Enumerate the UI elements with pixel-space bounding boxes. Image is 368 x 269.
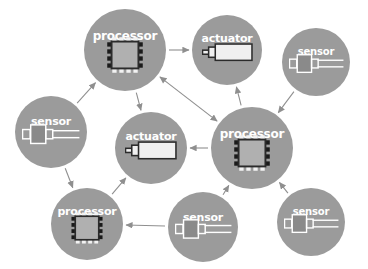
node-icon-wrap	[192, 42, 262, 66]
node-actuator-top[interactable]: actuator	[192, 15, 262, 85]
node-icon-wrap	[277, 212, 345, 239]
diagram-canvas: processoractuatorsensorsensoractuatorpro…	[0, 0, 368, 269]
node-sensor-left[interactable]: sensor	[15, 96, 87, 168]
sensor-icon	[284, 212, 339, 235]
node-icon-wrap	[84, 31, 166, 83]
node-processor-center[interactable]: processor	[211, 107, 293, 189]
node-actuator-middle[interactable]: actuator	[115, 112, 187, 184]
actuator-icon	[202, 42, 253, 62]
chip-icon	[66, 207, 108, 249]
node-icon-wrap	[115, 140, 187, 165]
edge-sensor-bottom-to-processor-bottom-left	[126, 225, 165, 226]
node-sensor-top-right[interactable]: sensor	[282, 28, 350, 96]
edge-processor-bottom-left-to-actuator-middle	[112, 178, 126, 194]
node-processor-bottom-left[interactable]: processor	[51, 188, 123, 260]
node-icon-wrap	[211, 129, 293, 181]
node-icon-wrap	[282, 52, 350, 79]
sensor-icon	[175, 217, 232, 241]
node-processor-top[interactable]: processor	[84, 9, 166, 91]
edge-sensor-bottom-to-processor-center	[223, 185, 229, 194]
node-icon-wrap	[168, 217, 238, 245]
edge-processor-center-to-actuator-top	[236, 87, 241, 106]
node-sensor-bottom[interactable]: sensor	[168, 192, 238, 262]
chip-icon	[101, 31, 149, 79]
edge-sensor-left-to-processor-top	[77, 83, 95, 103]
chip-icon	[228, 129, 276, 177]
actuator-icon	[125, 140, 177, 161]
sensor-icon	[289, 52, 344, 75]
node-icon-wrap	[15, 122, 87, 150]
sensor-icon	[22, 122, 80, 146]
edge-processor-top-processor-center	[160, 77, 217, 121]
edge-sensor-top-right-to-processor-center	[278, 92, 294, 113]
edge-processor-top-to-actuator-middle	[136, 93, 141, 111]
node-sensor-bottom-right[interactable]: sensor	[277, 188, 345, 256]
node-icon-wrap	[51, 207, 123, 253]
edge-sensor-bottom-right-to-processor-center	[279, 182, 288, 193]
edge-sensor-left-to-processor-bottom-left	[65, 168, 73, 187]
